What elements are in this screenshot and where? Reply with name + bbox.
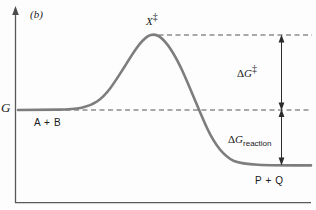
activation-g-symbol: G — [244, 67, 252, 79]
panel-label: (b) — [30, 9, 43, 20]
activation-arrowhead-up-icon — [279, 35, 285, 43]
transition-state-symbol: X — [146, 15, 153, 27]
activation-energy-arrow — [279, 35, 285, 111]
reaction-coordinate-diagram: (b) G A + B P + Q X‡ ΔG‡ ΔGreaction — [0, 0, 316, 210]
products-label: P + Q — [255, 176, 284, 186]
y-axis-label: G — [1, 101, 10, 114]
y-axis — [12, 6, 19, 203]
reactants-label: A + B — [34, 118, 61, 128]
transition-state-dagger-icon: ‡ — [153, 11, 158, 22]
reaction-energy-arrow — [279, 109, 285, 166]
activation-dagger-icon: ‡ — [252, 63, 257, 74]
reaction-energy-label: ΔGreaction — [228, 134, 272, 145]
activation-energy-label: ΔG‡ — [237, 68, 257, 79]
reaction-g-symbol: G — [235, 133, 243, 145]
reaction-subscript: reaction — [243, 139, 271, 148]
y-axis-arrowhead-icon — [12, 6, 19, 15]
transition-state-label: X‡ — [146, 16, 158, 27]
